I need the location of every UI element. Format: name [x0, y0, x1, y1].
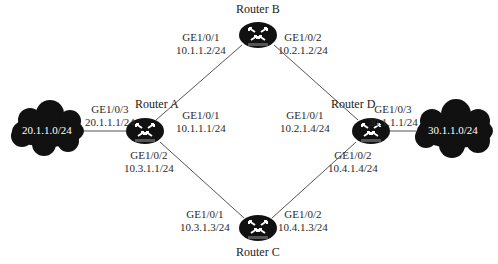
- iface-a-ge102: GE1/0/2 10.3.1.1/24: [124, 149, 174, 175]
- iface-port: GE1/0/2: [278, 31, 328, 44]
- iface-a-ge103: GE1/0/3 20.1.1.1/24: [85, 103, 135, 129]
- router-b-name: Router B: [236, 2, 280, 17]
- iface-d-ge101: GE1/0/1 10.2.1.4/24: [280, 109, 330, 135]
- iface-a-ge101: GE1/0/1 10.1.1.1/24: [176, 109, 226, 135]
- iface-c-ge102: GE1/0/2 10.4.1.3/24: [278, 208, 328, 234]
- iface-port: GE1/0/1: [176, 31, 226, 44]
- router-c-name: Router C: [236, 245, 280, 260]
- iface-ip: 10.4.1.3/24: [278, 221, 328, 234]
- iface-ip: 30.1.1.1/24: [368, 116, 418, 129]
- iface-ip: 10.1.1.2/24: [176, 44, 226, 57]
- iface-c-ge101: GE1/0/1 10.3.1.3/24: [180, 208, 230, 234]
- iface-port: GE1/0/1: [280, 109, 330, 122]
- iface-port: GE1/0/3: [85, 103, 135, 116]
- iface-port: GE1/0/2: [278, 208, 328, 221]
- iface-port: GE1/0/3: [368, 103, 418, 116]
- iface-ip: 10.4.1.4/24: [328, 162, 378, 175]
- iface-ip: 10.2.1.4/24: [280, 122, 330, 135]
- iface-ip: 10.3.1.1/24: [124, 162, 174, 175]
- iface-port: GE1/0/1: [180, 208, 230, 221]
- iface-ip: 10.3.1.3/24: [180, 221, 230, 234]
- router-c-icon[interactable]: [238, 214, 278, 242]
- iface-ip: 20.1.1.1/24: [85, 116, 135, 129]
- iface-d-ge103: GE1/0/3 30.1.1.1/24: [368, 103, 418, 129]
- iface-b-ge101: GE1/0/1 10.1.1.2/24: [176, 31, 226, 57]
- iface-port: GE1/0/1: [176, 109, 226, 122]
- iface-ip: 10.2.1.2/24: [278, 44, 328, 57]
- network-label-left: 20.1.1.0/24: [22, 124, 72, 136]
- iface-b-ge102: GE1/0/2 10.2.1.2/24: [278, 31, 328, 57]
- iface-port: GE1/0/2: [328, 149, 378, 162]
- router-a-name: Router A: [135, 97, 179, 112]
- iface-port: GE1/0/2: [124, 149, 174, 162]
- iface-ip: 10.1.1.1/24: [176, 122, 226, 135]
- iface-d-ge102: GE1/0/2 10.4.1.4/24: [328, 149, 378, 175]
- network-label-right: 30.1.1.0/24: [428, 124, 478, 136]
- router-b-icon[interactable]: [238, 21, 278, 49]
